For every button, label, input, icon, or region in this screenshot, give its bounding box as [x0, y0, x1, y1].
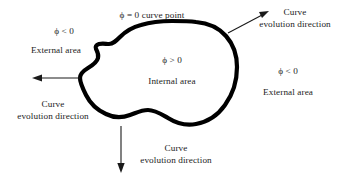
- top-left-external-area-label: External area: [31, 45, 81, 57]
- arrow-left-caption: Curve evolution direction: [17, 99, 89, 123]
- arrow-top-right-caption: Curve evolution direction: [259, 7, 331, 31]
- curve-point-label: ϕ = 0 curve point: [120, 10, 185, 22]
- arrow-left-caption-line2: evolution direction: [17, 111, 89, 123]
- top-left-sign-label: ϕ < 0: [54, 26, 74, 38]
- arrow-top-right-caption-line2: evolution direction: [259, 19, 331, 31]
- arrow-bottom-caption: Curve evolution direction: [140, 143, 212, 167]
- arrow-bottom-caption-line2: evolution direction: [140, 155, 212, 167]
- arrow-left: [32, 75, 80, 82]
- right-external-area-label: External area: [263, 87, 313, 99]
- level-set-diagram: ϕ = 0 curve point ϕ < 0 External area ϕ …: [0, 0, 344, 183]
- interior-sign-label: ϕ > 0: [162, 55, 182, 67]
- zero-level-set-curve: [80, 21, 237, 125]
- arrow-bottom: [117, 126, 124, 173]
- arrow-bottom-caption-line1: Curve: [140, 143, 212, 155]
- interior-internal-area-label: Internal area: [148, 76, 195, 88]
- arrow-top-right-caption-line1: Curve: [259, 7, 331, 19]
- right-sign-label: ϕ < 0: [278, 66, 298, 78]
- arrow-left-caption-line1: Curve: [17, 99, 89, 111]
